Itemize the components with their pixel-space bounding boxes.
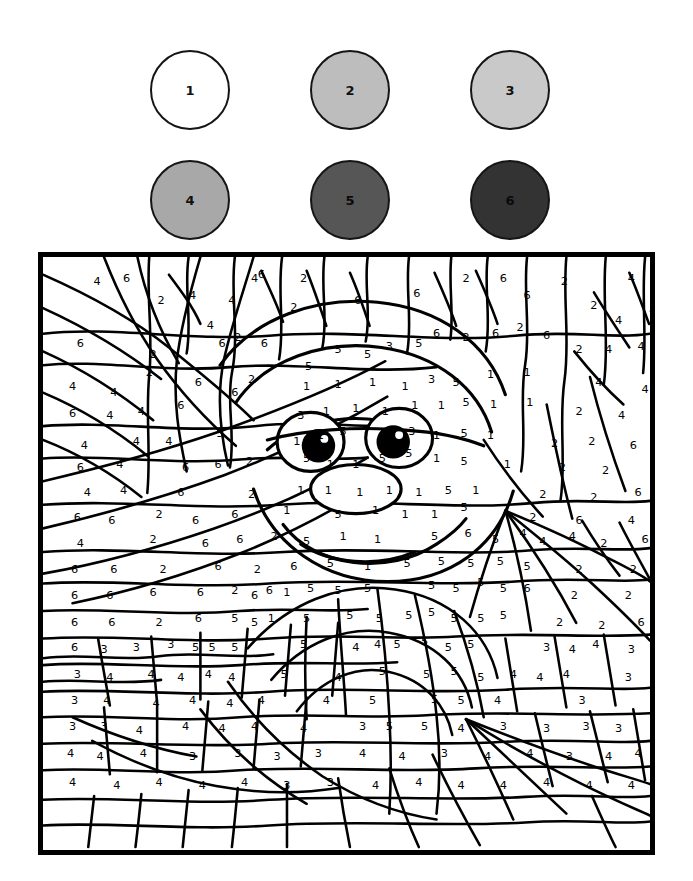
region-number: 6	[638, 616, 645, 629]
region-number: 4	[155, 776, 162, 789]
region-number: 6	[177, 399, 184, 412]
region-number: 6	[641, 533, 648, 546]
right-eye	[366, 408, 433, 467]
region-number: 2	[539, 488, 546, 501]
region-number: 1	[523, 366, 530, 379]
region-number: 3	[167, 638, 174, 651]
region-number: 4	[148, 668, 155, 681]
region-number: 6	[106, 589, 113, 602]
region-number: 3	[315, 747, 322, 760]
region-number: 4	[106, 409, 113, 422]
region-number: 5	[405, 609, 412, 622]
region-number: 5	[492, 533, 499, 546]
region-number: 6	[215, 560, 222, 573]
region-number: 6	[110, 563, 117, 576]
region-number: 5	[428, 579, 435, 592]
region-number: 6	[236, 533, 243, 546]
region-number: 6	[123, 272, 130, 285]
region-number: 5	[231, 641, 238, 654]
puzzle-artwork: 4624444622626662244462626255535626262444…	[43, 257, 650, 850]
region-number: 3	[386, 340, 393, 353]
region-number: 5	[423, 668, 430, 681]
region-number: 6	[635, 486, 642, 499]
region-number: 6	[523, 582, 530, 595]
region-number: 4	[182, 720, 189, 733]
region-number: 2	[231, 584, 238, 597]
region-number: 2	[155, 616, 162, 629]
region-number: 5	[335, 343, 342, 356]
region-number: 5	[421, 636, 428, 649]
region-number: 4	[323, 695, 330, 708]
region-number: 5	[251, 616, 258, 629]
color-key-4[interactable]: 4	[150, 160, 230, 240]
puzzle-grid[interactable]: 4624444622626662244462626255535626262444…	[38, 252, 655, 855]
region-number: 2	[590, 299, 597, 312]
region-number: 5	[428, 606, 435, 619]
region-number: 1	[472, 484, 479, 497]
region-number: 4	[628, 779, 635, 792]
region-number: 4	[228, 671, 235, 684]
region-number: 5	[339, 425, 346, 438]
region-number: 5	[303, 452, 310, 465]
region-number: 2	[602, 464, 609, 477]
region-number: 3	[500, 720, 507, 733]
region-number: 1	[415, 486, 422, 499]
region-number: 1	[356, 486, 363, 499]
region-number: 6	[464, 527, 471, 540]
region-number: 4	[458, 779, 465, 792]
region-number: 5	[431, 530, 438, 543]
color-key-5[interactable]: 5	[310, 160, 390, 240]
region-number: 4	[458, 722, 465, 735]
region-number: 3	[408, 425, 415, 438]
region-number: 1	[433, 429, 440, 442]
region-number: 5	[467, 557, 474, 570]
region-number: 5	[467, 638, 474, 651]
left-eye	[277, 412, 344, 471]
region-number: 4	[69, 380, 76, 393]
region-number: 4	[251, 720, 258, 733]
region-number: 4	[635, 747, 642, 760]
color-key-3[interactable]: 3	[470, 50, 550, 130]
region-number: 3	[543, 641, 550, 654]
region-number: 6	[543, 329, 550, 342]
region-number: 3	[283, 779, 290, 792]
region-number: 2	[625, 589, 632, 602]
region-number: 6	[251, 589, 258, 602]
region-number: 4	[165, 435, 172, 448]
region-number: 5	[192, 641, 199, 654]
region-number: 5	[415, 337, 422, 350]
region-number: 3	[428, 373, 435, 386]
region-number: 5	[364, 348, 371, 361]
region-number: 6	[433, 327, 440, 340]
region-number: 3	[100, 643, 107, 656]
color-key-2[interactable]: 2	[310, 50, 390, 130]
region-number: 4	[359, 747, 366, 760]
region-number: 1	[352, 458, 359, 471]
region-number: 5	[477, 576, 484, 589]
region-number: 4	[539, 535, 546, 548]
region-number: 1	[411, 399, 418, 412]
region-number: 2	[150, 533, 157, 546]
region-number: 2	[234, 331, 241, 344]
color-key-1[interactable]: 1	[150, 50, 230, 130]
region-number: 3	[566, 750, 573, 763]
region-number: 4	[103, 695, 110, 708]
region-number: 6	[108, 616, 115, 629]
color-key-6[interactable]: 6	[470, 160, 550, 240]
region-number: 1	[401, 380, 408, 393]
region-number: 4	[81, 439, 88, 452]
region-number: 2	[246, 455, 253, 468]
region-number: 5	[303, 612, 310, 625]
region-number: 3	[628, 643, 635, 656]
region-number: 4	[258, 695, 265, 708]
region-number: 4	[138, 405, 145, 418]
region-number: 4	[641, 383, 648, 396]
region-number: 3	[297, 409, 304, 422]
region-number: 6	[576, 514, 583, 527]
region-number: 4	[595, 376, 602, 389]
region-number: 2	[576, 343, 583, 356]
color-legend: 1 2 3 4 5 6	[150, 42, 550, 234]
region-number: 3	[359, 720, 366, 733]
region-number: 5	[300, 638, 307, 651]
color-key-6-label: 6	[505, 194, 514, 207]
